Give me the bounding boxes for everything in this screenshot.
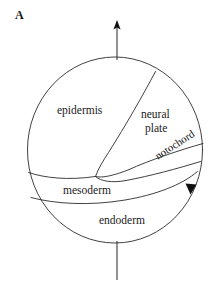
- label-endoderm: endoderm: [99, 214, 145, 226]
- embryo-fate-map-diagram: epidermis neural plate notochord mesoder…: [0, 0, 221, 297]
- neural-plate-notochord-boundary: [96, 144, 204, 178]
- mesoderm-upper-boundary: [29, 173, 96, 179]
- notochord-lower-boundary: [96, 162, 201, 182]
- mesoderm-endoderm-boundary: [31, 172, 198, 204]
- label-mesoderm: mesoderm: [63, 184, 111, 196]
- label-neural-plate-line1: neural: [141, 108, 170, 120]
- label-epidermis: epidermis: [57, 104, 103, 117]
- label-neural-plate-line2: plate: [145, 122, 167, 135]
- figure-panel: A epidermis neural plate notochord mesod…: [0, 0, 221, 297]
